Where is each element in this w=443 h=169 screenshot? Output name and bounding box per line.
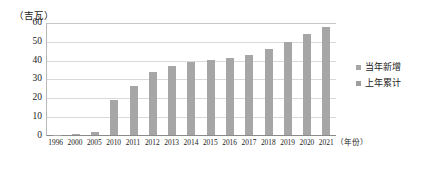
bar-slot-2011 xyxy=(124,23,143,135)
bar-slot-2020 xyxy=(297,23,316,135)
bar-2010 xyxy=(110,100,118,135)
bar-2021 xyxy=(322,27,330,135)
legend-label-cumulative: 上年累计 xyxy=(365,78,401,88)
bar-slot-2017 xyxy=(240,23,259,135)
y-tick-10: 10 xyxy=(4,112,42,122)
x-tick-2005: 2005 xyxy=(85,138,104,152)
bar-2016 xyxy=(226,58,234,135)
y-tick-30: 30 xyxy=(4,74,42,84)
x-tick-2000: 2000 xyxy=(65,138,84,152)
bar-slot-2005 xyxy=(86,23,105,135)
bar-slot-2021 xyxy=(317,23,336,135)
bar-group xyxy=(47,23,336,135)
bar-2017 xyxy=(245,55,253,135)
bar-slot-2014 xyxy=(182,23,201,135)
x-tick-2019: 2019 xyxy=(278,138,297,152)
bar-2005 xyxy=(91,132,99,135)
legend-swatch-icon-cumulative xyxy=(356,81,361,86)
bar-slot-2000 xyxy=(66,23,85,135)
bar-slot-2010 xyxy=(105,23,124,135)
bar-2014 xyxy=(187,62,195,135)
x-tick-2017: 2017 xyxy=(239,138,258,152)
bar-2011 xyxy=(130,86,138,135)
bar-2018 xyxy=(265,49,273,135)
x-axis-unit-label: （年份） xyxy=(336,138,368,148)
bar-2012 xyxy=(149,72,157,135)
legend-swatch-icon-current-year xyxy=(356,65,361,70)
x-tick-2015: 2015 xyxy=(201,138,220,152)
y-tick-40: 40 xyxy=(4,56,42,66)
bar-2015 xyxy=(207,60,215,135)
x-tick-1996: 1996 xyxy=(46,138,65,152)
bar-slot-2019 xyxy=(278,23,297,135)
bar-slot-2012 xyxy=(143,23,162,135)
y-tick-0: 0 xyxy=(4,131,42,141)
x-tick-2010: 2010 xyxy=(104,138,123,152)
y-tick-50: 50 xyxy=(4,37,42,47)
plot-area xyxy=(46,23,336,136)
x-tick-2011: 2011 xyxy=(123,138,142,152)
x-tick-2014: 2014 xyxy=(181,138,200,152)
x-tick-2013: 2013 xyxy=(162,138,181,152)
x-tick-2021: 2021 xyxy=(317,138,336,152)
chart-legend: 当年新增 上年累计 xyxy=(356,62,442,94)
y-axis-tick-labels: 60 50 40 30 20 10 0 xyxy=(0,23,42,136)
legend-item-cumulative[interactable]: 上年累计 xyxy=(356,78,442,88)
bar-slot-1996 xyxy=(47,23,66,135)
bar-2020 xyxy=(303,34,311,135)
legend-item-current-year[interactable]: 当年新增 xyxy=(356,62,442,72)
bar-2000 xyxy=(72,134,80,135)
x-tick-2020: 2020 xyxy=(297,138,316,152)
bar-slot-2018 xyxy=(259,23,278,135)
x-tick-2016: 2016 xyxy=(220,138,239,152)
y-tick-60: 60 xyxy=(4,18,42,28)
bar-slot-2015 xyxy=(201,23,220,135)
chart-figure: （吉瓦） 60 50 40 30 20 10 0 199620002005201… xyxy=(0,0,443,169)
bar-slot-2013 xyxy=(163,23,182,135)
bar-2019 xyxy=(284,42,292,135)
x-tick-2018: 2018 xyxy=(259,138,278,152)
legend-label-current-year: 当年新增 xyxy=(365,62,401,72)
y-tick-20: 20 xyxy=(4,93,42,103)
x-axis-tick-labels: 1996200020052010201120122013201420152016… xyxy=(46,138,336,152)
bar-2013 xyxy=(168,66,176,135)
bar-slot-2016 xyxy=(220,23,239,135)
x-tick-2012: 2012 xyxy=(143,138,162,152)
